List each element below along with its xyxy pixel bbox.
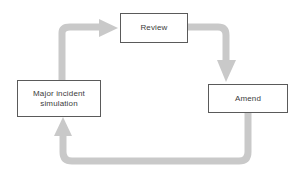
node-major-incident-simulation-label: Major incident simulation bbox=[33, 89, 85, 109]
connector-amend-to-simulation bbox=[63, 113, 248, 161]
node-major-incident-simulation[interactable]: Major incident simulation bbox=[17, 80, 101, 117]
diagram-canvas: Review Amend Major incident simulation bbox=[0, 0, 308, 181]
node-amend[interactable]: Amend bbox=[208, 84, 288, 113]
node-review-label: Review bbox=[140, 23, 167, 33]
arrowhead-into-amend-icon bbox=[217, 60, 236, 82]
node-review[interactable]: Review bbox=[120, 13, 188, 43]
arrowhead-into-simulation-icon bbox=[54, 117, 72, 136]
node-amend-label: Amend bbox=[235, 94, 261, 104]
arrowhead-into-review-icon bbox=[99, 19, 118, 37]
connector-review-to-amend bbox=[188, 27, 226, 62]
